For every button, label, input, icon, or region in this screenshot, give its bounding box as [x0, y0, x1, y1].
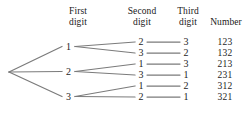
- number-row4: 231: [208, 70, 242, 80]
- header-number: Number: [204, 17, 248, 28]
- edge-2-to-3b: [75, 72, 135, 76]
- node-second-digit-row1: 2: [135, 37, 147, 47]
- header-second-digit: Second digit: [120, 6, 164, 27]
- node-second-digit-row3: 1: [135, 59, 147, 69]
- edge-1-to-3a: [75, 47, 135, 54]
- node-third-digit-row6: 1: [180, 92, 192, 102]
- header-third-digit: Third digit: [167, 6, 209, 27]
- edge-root-to-3: [9, 72, 62, 97]
- number-row2: 132: [208, 48, 242, 58]
- number-row3: 213: [208, 59, 242, 69]
- node-second-digit-row6: 2: [135, 92, 147, 102]
- number-row1: 123: [208, 37, 242, 47]
- edge-3-to-2b: [75, 97, 135, 98]
- node-first-digit-1: 1: [62, 42, 75, 52]
- node-third-digit-row1: 3: [180, 37, 192, 47]
- node-second-digit-row2: 3: [135, 48, 147, 58]
- header-second-digit-line1: Second: [120, 6, 164, 17]
- edge-group-first-to-second: [75, 42, 135, 97]
- header-first-digit-line2: digit: [54, 17, 102, 28]
- node-second-digit-row5: 1: [135, 81, 147, 91]
- edge-3-to-1b: [75, 86, 135, 97]
- node-third-digit-row3: 3: [180, 59, 192, 69]
- edge-root-to-2: [9, 72, 62, 73]
- header-third-digit-line2: digit: [167, 17, 209, 28]
- node-third-digit-row2: 2: [180, 48, 192, 58]
- header-number-label: Number: [204, 17, 248, 28]
- node-first-digit-2: 2: [62, 67, 75, 77]
- number-row6: 321: [208, 92, 242, 102]
- edge-group-second-to-third: [147, 42, 180, 97]
- edge-2-to-1a: [75, 64, 135, 72]
- header-third-digit-line1: Third: [167, 6, 209, 17]
- node-third-digit-row5: 2: [180, 81, 192, 91]
- node-third-digit-row4: 1: [180, 70, 192, 80]
- node-first-digit-3: 3: [62, 92, 75, 102]
- header-first-digit-line1: First: [54, 6, 102, 17]
- number-row5: 312: [208, 81, 242, 91]
- node-second-digit-row4: 3: [135, 70, 147, 80]
- header-first-digit: First digit: [54, 6, 102, 27]
- edge-root-to-1: [9, 47, 62, 73]
- edge-group-root-to-first: [9, 47, 62, 97]
- tree-diagram: First digit Second digit Third digit Num…: [0, 0, 251, 120]
- edge-1-to-2a: [75, 42, 135, 47]
- header-second-digit-line2: digit: [120, 17, 164, 28]
